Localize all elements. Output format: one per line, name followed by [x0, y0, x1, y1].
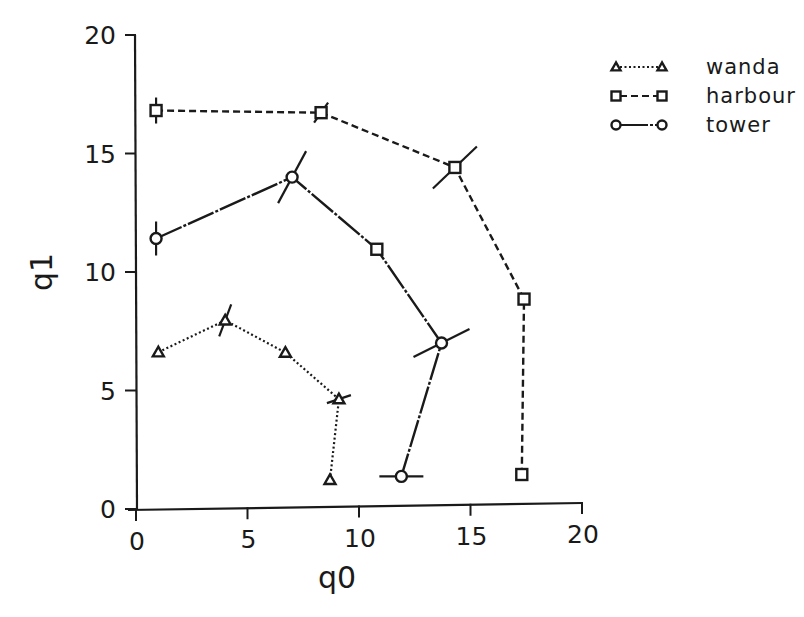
y-axis-title: q1: [24, 253, 59, 291]
circle-marker-icon: [287, 172, 298, 183]
triangle-marker-icon: [153, 347, 164, 357]
x-tick-label: 20: [567, 520, 599, 549]
y-ticks: 05101520: [84, 21, 136, 524]
legend-label: harbour: [706, 84, 796, 108]
circle-marker-icon: [151, 233, 162, 244]
legend-label: wanda: [706, 55, 781, 79]
x-tick-label: 15: [456, 522, 488, 551]
x-tick-label: 0: [129, 527, 145, 556]
y-tick-label: 20: [84, 21, 116, 50]
series-wanda: [153, 304, 351, 484]
legend-item-tower: tower: [612, 113, 771, 137]
series-line-wanda: [158, 320, 339, 480]
plot-area: [151, 98, 530, 484]
square-marker-icon: [519, 294, 530, 305]
circle-marker-icon: [436, 338, 447, 349]
square-marker-icon: [316, 107, 327, 118]
x-tick-label: 5: [241, 525, 257, 554]
triangle-marker-icon: [325, 474, 336, 484]
series-tower: [151, 151, 470, 482]
y-tick-label: 15: [84, 140, 116, 169]
chart: 05101520 05101520 q0 q1 wandaharbourtowe…: [0, 0, 804, 617]
y-tick-label: 5: [100, 377, 116, 406]
circle-marker-icon: [658, 121, 667, 130]
legend: wandaharbourtower: [612, 55, 796, 137]
series-harbour: [151, 98, 530, 480]
triangle-marker-icon: [220, 315, 231, 325]
series-line-tower: [156, 177, 441, 476]
x-axis-line: [128, 503, 582, 510]
legend-item-harbour: harbour: [612, 84, 796, 108]
y-tick-label: 10: [84, 258, 116, 287]
square-marker-icon: [658, 92, 667, 101]
circle-marker-icon: [396, 471, 407, 482]
x-ticks: 05101520: [129, 502, 599, 556]
square-marker-icon: [371, 244, 382, 255]
square-marker-icon: [612, 92, 621, 101]
x-axis-title: q0: [318, 560, 356, 595]
square-marker-icon: [449, 162, 460, 173]
square-marker-icon: [516, 469, 527, 480]
axes: 05101520 05101520 q0 q1: [24, 21, 599, 595]
triangle-marker-icon: [280, 347, 291, 357]
y-tick-label: 0: [100, 495, 116, 524]
series-line-harbour: [156, 111, 524, 475]
triangle-marker-icon: [612, 63, 621, 71]
legend-label: tower: [706, 113, 771, 137]
circle-marker-icon: [612, 121, 621, 130]
triangle-marker-icon: [658, 63, 667, 71]
x-tick-label: 10: [344, 524, 376, 553]
square-marker-icon: [151, 105, 162, 116]
legend-item-wanda: wanda: [612, 55, 781, 79]
